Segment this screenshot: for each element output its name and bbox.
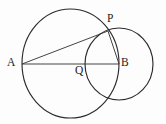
geometry-figure: A P Q B	[0, 0, 166, 124]
figure-canvas	[0, 0, 166, 124]
point-label-b: B	[121, 57, 129, 69]
point-label-p: P	[107, 13, 113, 25]
point-label-q: Q	[75, 65, 83, 77]
large-circle	[22, 9, 119, 118]
point-label-a: A	[7, 57, 15, 69]
segment-a-to-p	[22, 31, 108, 64]
